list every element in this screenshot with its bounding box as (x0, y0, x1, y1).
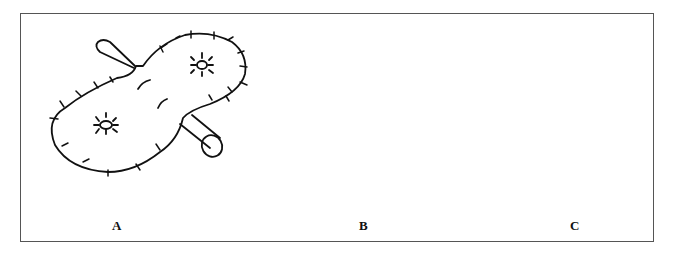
panel-a-drawing (50, 31, 247, 176)
panel-a-label: A (112, 218, 121, 234)
diagram-canvas (0, 0, 675, 254)
panel-c-label: C (570, 218, 579, 234)
panel-b-label: B (359, 218, 368, 234)
